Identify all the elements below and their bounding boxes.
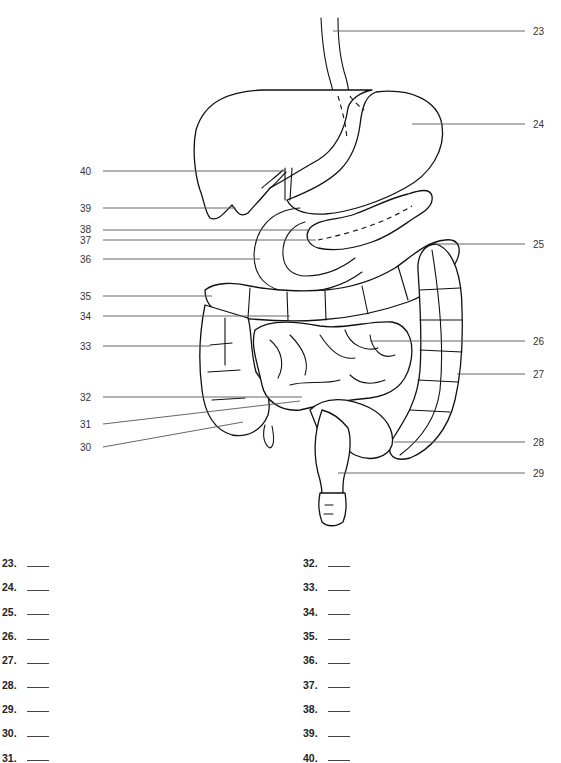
answer-row-31: 31. [2, 745, 49, 763]
callout-23: 23 [333, 26, 545, 37]
answer-row-36: 36. [303, 648, 350, 672]
answer-column-left: 23. 24. 25. 26. 27. 28. 29. 30. 31. [2, 551, 49, 763]
answer-column-right: 32. 33. 34. 35. 36. 37. 38. 39. 40. [303, 551, 350, 763]
svg-text:27: 27 [533, 369, 545, 380]
answer-row-29: 29. [2, 697, 49, 721]
appendix [264, 425, 274, 448]
svg-text:35: 35 [80, 291, 92, 302]
svg-text:40: 40 [80, 166, 92, 177]
callout-38: 38 [80, 224, 310, 235]
svg-text:28: 28 [533, 437, 545, 448]
svg-text:37: 37 [80, 235, 92, 246]
svg-text:33: 33 [80, 341, 92, 352]
svg-text:24: 24 [533, 119, 545, 130]
answer-blank-31[interactable] [27, 754, 49, 761]
answer-row-30: 30. [2, 721, 49, 745]
callout-29: 29 [338, 468, 545, 479]
answer-row-38: 38. [303, 697, 350, 721]
answer-row-33: 33. [303, 575, 350, 599]
answer-row-24: 24. [2, 575, 49, 599]
answer-blank-39[interactable] [328, 730, 350, 737]
callout-27: 27 [457, 369, 545, 380]
answer-row-23: 23. [2, 551, 49, 575]
answer-row-37: 37. [303, 672, 350, 696]
callout-37: 37 [80, 235, 316, 246]
svg-text:36: 36 [80, 254, 92, 265]
answer-row-32: 32. [303, 551, 350, 575]
answer-blank-28[interactable] [27, 681, 49, 688]
digestive-system-diagram: 23 24 25 26 27 28 29 40 39 38 37 36 35 3… [0, 0, 561, 545]
answer-blank-23[interactable] [27, 560, 49, 567]
answer-blank-33[interactable] [328, 584, 350, 591]
answer-blank-24[interactable] [27, 584, 49, 591]
answer-row-40: 40. [303, 745, 350, 763]
answer-row-39: 39. [303, 721, 350, 745]
answer-blank-36[interactable] [328, 657, 350, 664]
answer-blank-34[interactable] [328, 608, 350, 615]
answer-blank-29[interactable] [27, 705, 49, 712]
callout-36: 36 [80, 254, 260, 265]
svg-text:31: 31 [80, 419, 92, 430]
svg-text:23: 23 [533, 26, 545, 37]
answer-blank-32[interactable] [328, 560, 350, 567]
answer-blank-38[interactable] [328, 705, 350, 712]
svg-text:32: 32 [80, 392, 92, 403]
answer-blank-40[interactable] [328, 754, 350, 761]
svg-text:34: 34 [80, 311, 92, 322]
answer-row-35: 35. [303, 624, 350, 648]
svg-text:26: 26 [533, 336, 545, 347]
svg-text:39: 39 [80, 203, 92, 214]
anal-canal [319, 493, 346, 526]
answer-row-26: 26. [2, 624, 49, 648]
answer-blank-25[interactable] [27, 608, 49, 615]
esophagus [321, 18, 350, 100]
answer-row-28: 28. [2, 672, 49, 696]
svg-text:29: 29 [533, 468, 545, 479]
answer-blank-35[interactable] [328, 633, 350, 640]
callout-30: 30 [80, 422, 243, 453]
answer-row-34: 34. [303, 600, 350, 624]
answer-blank-37[interactable] [328, 681, 350, 688]
answer-blank-30[interactable] [27, 730, 49, 737]
callout-33: 33 [80, 341, 210, 352]
answer-blank-27[interactable] [27, 657, 49, 664]
answer-row-27: 27. [2, 648, 49, 672]
answer-row-25: 25. [2, 600, 49, 624]
svg-text:25: 25 [533, 239, 545, 250]
answer-blank-26[interactable] [27, 633, 49, 640]
svg-text:38: 38 [80, 224, 92, 235]
svg-text:30: 30 [80, 442, 92, 453]
callout-35: 35 [80, 291, 212, 302]
